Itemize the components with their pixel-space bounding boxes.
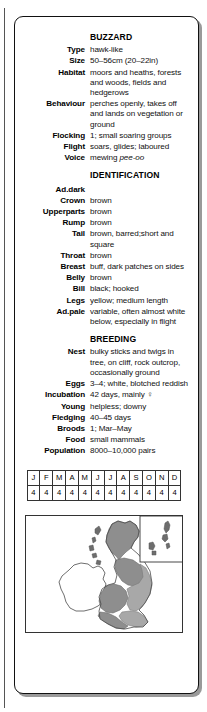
voice-call-italic: pee-oo: [119, 153, 144, 162]
table-row-breast: Breast buff, dark patches on sides: [19, 262, 189, 273]
calendar-month-may: M: [78, 470, 91, 485]
uk-map-svg: [26, 516, 183, 633]
table-row-food: Food small mammals: [19, 435, 189, 446]
row-label-crown: Crown: [19, 196, 90, 207]
row-value-food: small mammals: [90, 435, 189, 446]
row-label-incubation: Incubation: [19, 390, 90, 401]
table-row-flocking: Flocking 1; small soaring groups: [19, 131, 189, 142]
shetland-orkney-inset-frame: [140, 516, 183, 562]
calendar-month-dec: D: [168, 470, 181, 485]
table-row-type: Type hawk-like: [19, 45, 189, 56]
row-value-voice: mewing pee-oo: [90, 153, 189, 164]
calendar-month-row: J F M A M J J A S O N D: [27, 470, 181, 485]
table-row-bill: Bill black; hooked: [19, 284, 189, 295]
row-value-behaviour: perches openly, takes off and lands on v…: [90, 99, 189, 131]
row-label-food: Food: [19, 435, 90, 446]
row-label-flocking: Flocking: [19, 131, 90, 142]
section-heading-breeding: BREEDING: [90, 334, 136, 344]
table-row-broods: Broods 1; Mar–May: [19, 424, 189, 435]
row-value-legs: yellow; medium length: [90, 296, 189, 307]
row-value-bill: black; hooked: [90, 284, 189, 295]
table-row-ad-dark: Ad.dark: [19, 184, 189, 196]
calendar-status-aug: 4: [117, 485, 130, 500]
row-value-rump: brown: [90, 218, 189, 229]
voice-text: mewing: [90, 153, 119, 162]
table-row-fledging: Fledging 40–45 days: [19, 413, 189, 424]
section-heading-breeding-row: BREEDING: [19, 328, 189, 347]
title-row: BUZZARD: [19, 26, 189, 45]
page-title: BUZZARD: [90, 32, 132, 42]
table-row-young: Young helpless; downy: [19, 402, 189, 413]
calendar-status-dec: 4: [168, 485, 181, 500]
row-label-ad-dark: Ad.dark: [19, 184, 90, 196]
row-value-incubation: 42 days, mainly ♀: [90, 390, 189, 401]
row-value-young: helpless; downy: [90, 402, 189, 413]
table-row-voice: Voice mewing pee-oo: [19, 153, 189, 164]
row-value-type: hawk-like: [90, 45, 189, 56]
row-label-legs: Legs: [19, 296, 90, 307]
row-value-throat: brown: [90, 251, 189, 262]
row-value-crown: brown: [90, 196, 189, 207]
row-label-size: Size: [19, 56, 90, 67]
calendar-status-sep: 4: [130, 485, 143, 500]
table-row-belly: Belly brown: [19, 273, 189, 284]
row-label-tail: Tail: [19, 229, 90, 250]
table-row-rump: Rump brown: [19, 218, 189, 229]
row-label-belly: Belly: [19, 273, 90, 284]
row-value-size: 50–56cm (20–22in): [90, 56, 189, 67]
calendar-month-aug: A: [117, 470, 130, 485]
table-row-crown: Crown brown: [19, 196, 189, 207]
row-label-population: Population: [19, 446, 90, 457]
calendar-status-nov: 4: [155, 485, 168, 500]
species-spec-table: BUZZARD Type hawk-like Size 50–56cm (20–…: [19, 26, 189, 458]
row-label-throat: Throat: [19, 251, 90, 262]
table-row-behaviour: Behaviour perches openly, takes off and …: [19, 99, 189, 131]
row-label-type: Type: [19, 45, 90, 56]
row-value-upperparts: brown: [90, 207, 189, 218]
row-value-fledging: 40–45 days: [90, 413, 189, 424]
row-label-upperparts: Upperparts: [19, 207, 90, 218]
section-heading-identification-row: IDENTIFICATION: [19, 164, 189, 183]
calendar-month-sep: S: [130, 470, 143, 485]
calendar-status-jul: 4: [104, 485, 117, 500]
calendar-status-jun: 4: [91, 485, 104, 500]
calendar-month-apr: A: [66, 470, 79, 485]
row-value-eggs: 3–4; white, blotched reddish: [90, 379, 189, 390]
table-row-eggs: Eggs 3–4; white, blotched reddish: [19, 379, 189, 390]
calendar-status-jan: 4: [27, 485, 40, 500]
row-label-eggs: Eggs: [19, 379, 90, 390]
section-heading-identification: IDENTIFICATION: [90, 170, 160, 180]
row-label-habitat: Habitat: [19, 68, 90, 100]
table-row-flight: Flight soars, glides; laboured: [19, 142, 189, 153]
row-value-ad-pale: variable, often almost white below, espe…: [90, 307, 189, 328]
calendar-status-row: 4 4 4 4 4 4 4 4 4 4 4 4: [27, 485, 181, 500]
month-calendar-wrapper: J F M A M J J A S O N D 4: [19, 470, 189, 501]
row-label-behaviour: Behaviour: [19, 99, 90, 131]
table-row-incubation: Incubation 42 days, mainly ♀: [19, 390, 189, 401]
calendar-month-jul: J: [104, 470, 117, 485]
row-label-breast: Breast: [19, 262, 90, 273]
row-value-flight: soars, glides; laboured: [90, 142, 189, 153]
distribution-map-wrapper: [19, 515, 189, 633]
row-value-belly: brown: [90, 273, 189, 284]
calendar-month-mar: M: [53, 470, 66, 485]
calendar-status-may: 4: [78, 485, 91, 500]
calendar-status-mar: 4: [53, 485, 66, 500]
title-spacer: [19, 26, 90, 45]
row-value-tail: brown, barred;short and square: [90, 229, 189, 250]
row-value-broods: 1; Mar–May: [90, 424, 189, 435]
table-row-upperparts: Upperparts brown: [19, 207, 189, 218]
row-value-flocking: 1; small soaring groups: [90, 131, 189, 142]
table-row-tail: Tail brown, barred;short and square: [19, 229, 189, 250]
row-label-ad-pale: Ad.pale: [19, 307, 90, 328]
row-label-nest: Nest: [19, 347, 90, 379]
row-label-voice: Voice: [19, 153, 90, 164]
calendar-status-apr: 4: [66, 485, 79, 500]
table-row-legs: Legs yellow; medium length: [19, 296, 189, 307]
calendar-month-jan: J: [27, 470, 40, 485]
row-label-broods: Broods: [19, 424, 90, 435]
table-row-population: Population 8000–10,000 pairs: [19, 446, 189, 457]
row-label-bill: Bill: [19, 284, 90, 295]
page-gutter-rule: [4, 8, 5, 708]
calendar-status-feb: 4: [40, 485, 53, 500]
